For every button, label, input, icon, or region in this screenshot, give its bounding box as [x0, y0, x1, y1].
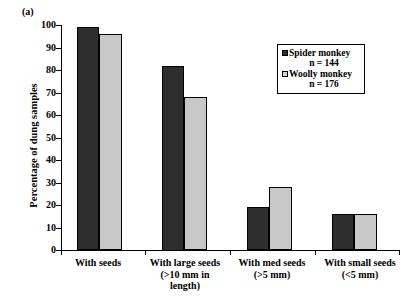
x-axis-tick: [315, 250, 316, 255]
y-axis-tick: [56, 205, 61, 206]
y-tick-label: 30: [26, 178, 56, 188]
x-category-line: With small seeds: [313, 257, 407, 269]
x-axis-tick: [399, 250, 400, 255]
y-axis-tick: [56, 48, 61, 49]
legend-label: Woolly monkey: [289, 69, 352, 79]
bar-woolly-med-seeds: [269, 187, 292, 250]
y-axis-line: [61, 25, 62, 251]
bar-woolly-small-seeds: [354, 214, 377, 250]
y-tick-label: 80: [26, 65, 56, 75]
bar-spider-with-seeds: [77, 27, 99, 250]
x-category-line: (>10 mm in: [137, 269, 233, 281]
y-tick-label: 70: [26, 88, 56, 98]
x-axis-tick: [230, 250, 231, 255]
legend-entry-woolly-monkey: Woolly monkey: [282, 69, 360, 79]
y-axis-tick: [56, 25, 61, 26]
panel-letter: (a): [22, 6, 34, 17]
x-category-line: With seeds: [58, 257, 138, 269]
y-tick-label: 40: [26, 155, 56, 165]
x-axis-tick: [145, 250, 146, 255]
y-axis-tick: [56, 138, 61, 139]
x-category-line: (>5 mm): [227, 269, 317, 281]
x-category-label-small-seeds: With small seeds (<5 mm): [313, 257, 407, 280]
y-axis-title: Percentage of dung samples: [28, 51, 39, 241]
bar-spider-small-seeds: [332, 214, 354, 250]
x-category-line: (<5 mm): [313, 269, 407, 281]
y-axis-tick: [56, 93, 61, 94]
y-axis-tick: [56, 70, 61, 71]
x-axis-tick: [61, 250, 62, 255]
y-tick-label: 0: [26, 245, 56, 255]
y-tick-label: 90: [26, 43, 56, 53]
x-category-line: length): [137, 280, 233, 292]
figure-panel-a: (a) Percentage of dung samples 100 90 80…: [0, 0, 417, 308]
y-tick-label: 60: [26, 110, 56, 120]
x-category-label-with-seeds: With seeds: [58, 257, 138, 269]
legend-swatch-icon: [282, 71, 288, 77]
x-category-label-med-seeds: With med seeds (>5 mm): [227, 257, 317, 280]
y-axis-tick: [56, 228, 61, 229]
y-tick-label: 50: [26, 133, 56, 143]
legend-sample-size: n = 144: [282, 58, 360, 69]
legend-sample-size: n = 176: [282, 79, 360, 90]
y-axis-tick: [56, 160, 61, 161]
y-axis-tick: [56, 115, 61, 116]
x-category-line: With large seeds: [137, 257, 233, 269]
y-tick-label: 100: [26, 20, 56, 30]
y-tick-label: 10: [26, 223, 56, 233]
bar-woolly-with-seeds: [99, 34, 122, 250]
bar-spider-large-seeds: [162, 66, 184, 251]
legend-swatch-icon: [282, 50, 288, 56]
legend-box: Spider monkey n = 144 Woolly monkey n = …: [277, 44, 365, 94]
x-category-line: With med seeds: [227, 257, 317, 269]
legend-entry-spider-monkey: Spider monkey: [282, 48, 360, 58]
bar-spider-med-seeds: [247, 207, 269, 250]
legend-label: Spider monkey: [289, 48, 350, 58]
x-category-label-large-seeds: With large seeds (>10 mm in length): [137, 257, 233, 292]
y-tick-label: 20: [26, 200, 56, 210]
y-axis-tick: [56, 183, 61, 184]
bar-woolly-large-seeds: [184, 97, 207, 250]
